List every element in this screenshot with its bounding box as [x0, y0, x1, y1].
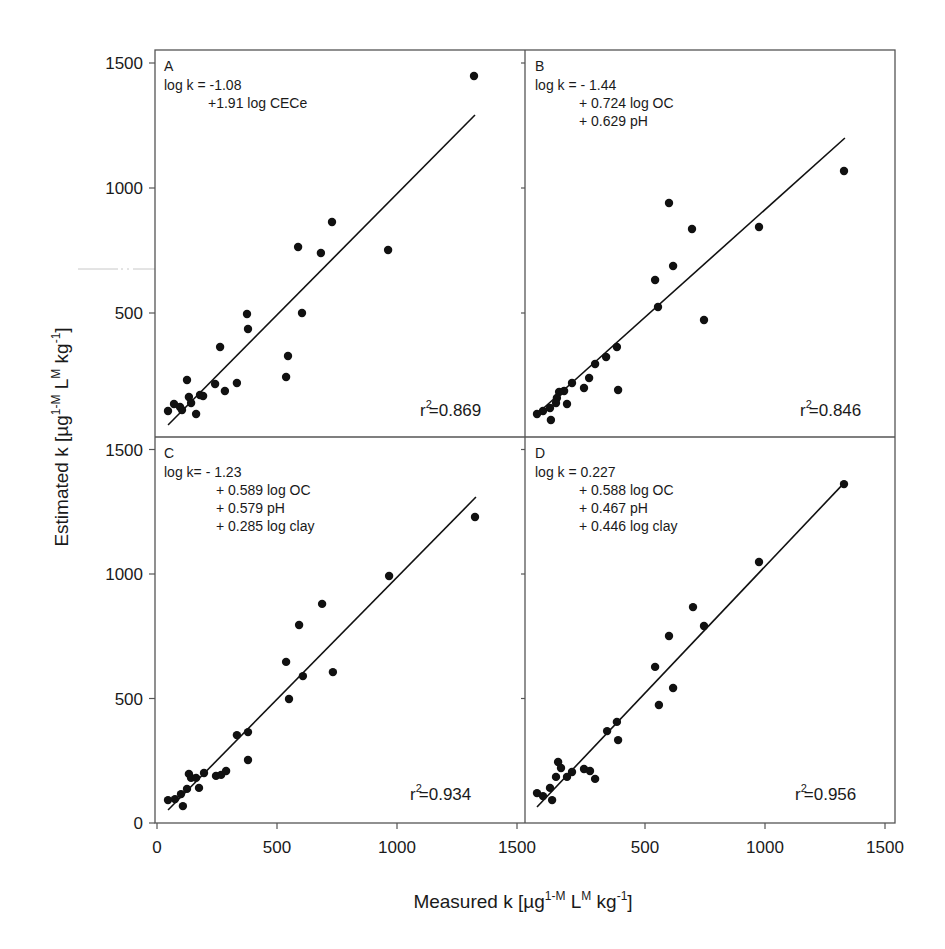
- data-point: [654, 303, 662, 311]
- data-point: [178, 406, 186, 414]
- data-point: [470, 72, 478, 80]
- data-point: [568, 379, 576, 387]
- data-point: [200, 769, 208, 777]
- data-point: [199, 392, 207, 400]
- equation-line: +1.91 log CECe: [208, 95, 307, 111]
- equation-line: + 0.589 log OC: [216, 482, 311, 498]
- data-point: [164, 796, 172, 804]
- data-point: [548, 796, 556, 804]
- data-point: [216, 343, 224, 351]
- regression-line: [168, 115, 475, 425]
- data-point: [298, 309, 306, 317]
- data-point: [187, 399, 195, 407]
- panel-a: Alog k = -1.08+1.91 log CECer2=0.869: [164, 58, 481, 425]
- data-point: [244, 728, 252, 736]
- equation-line: + 0.629 pH: [579, 113, 648, 129]
- x-tick-label: 1500: [498, 838, 536, 857]
- data-point: [222, 767, 230, 775]
- data-point: [183, 376, 191, 384]
- chart-figure: Alog k = -1.08+1.91 log CECer2=0.869Blog…: [0, 0, 945, 949]
- data-point: [688, 225, 696, 233]
- equation-line: + 0.724 log OC: [579, 95, 674, 111]
- x-tick-label: 1000: [746, 838, 784, 857]
- r-squared-label: r2=0.934: [410, 782, 471, 804]
- data-point: [282, 373, 290, 381]
- data-point: [164, 407, 172, 415]
- panels-group: Alog k = -1.08+1.91 log CECer2=0.869Blog…: [164, 58, 861, 810]
- y-tick-label: 1000: [105, 565, 143, 584]
- data-point: [299, 672, 307, 680]
- equation-line: + 0.579 pH: [216, 500, 285, 516]
- data-point: [840, 480, 848, 488]
- data-point: [586, 767, 594, 775]
- data-point: [294, 243, 302, 251]
- data-point: [755, 558, 763, 566]
- data-point: [613, 718, 621, 726]
- data-point: [546, 784, 554, 792]
- data-point: [221, 387, 229, 395]
- data-point: [580, 384, 588, 392]
- data-point: [655, 701, 663, 709]
- data-point: [195, 784, 203, 792]
- equation-line: + 0.446 log clay: [579, 518, 677, 534]
- data-point: [591, 775, 599, 783]
- r-squared-label: r2=0.956: [795, 782, 856, 804]
- regression-line: [537, 138, 845, 414]
- data-point: [700, 622, 708, 630]
- data-point: [192, 410, 200, 418]
- axes-group: 5001000150005001000150005001000150050010…: [105, 54, 904, 857]
- x-tick-label: 0: [152, 838, 161, 857]
- y-tick-label: 1500: [105, 54, 143, 73]
- data-point: [329, 668, 337, 676]
- data-point: [233, 731, 241, 739]
- x-axis-title: Measured k [µg1-M LM kg-1]: [413, 889, 632, 912]
- equation-line: + 0.467 pH: [579, 500, 648, 516]
- panel-letter: C: [164, 445, 174, 461]
- data-point: [755, 223, 763, 231]
- equation-line: log k= - 1.23: [164, 464, 242, 480]
- data-point: [318, 600, 326, 608]
- panel-c: Clog k= - 1.23+ 0.589 log OC+ 0.579 pH+ …: [164, 445, 479, 810]
- data-point: [651, 663, 659, 671]
- panel-b: Blog k = - 1.44+ 0.724 log OC+ 0.629 pHr…: [533, 58, 861, 424]
- x-tick-label: 500: [263, 838, 291, 857]
- data-point: [614, 386, 622, 394]
- data-point: [651, 276, 659, 284]
- equation-line: log k = -1.08: [164, 77, 242, 93]
- equation-line: log k = 0.227: [535, 464, 616, 480]
- data-point: [563, 400, 571, 408]
- data-point: [547, 416, 555, 424]
- data-point: [689, 603, 697, 611]
- data-point: [669, 684, 677, 692]
- data-point: [614, 736, 622, 744]
- data-point: [557, 764, 565, 772]
- data-point: [602, 353, 610, 361]
- data-point: [285, 695, 293, 703]
- y-tick-label: 1000: [105, 179, 143, 198]
- x-tick-label: 1000: [378, 838, 416, 857]
- data-point: [591, 360, 599, 368]
- data-point: [665, 199, 673, 207]
- y-tick-label: 0: [134, 814, 143, 833]
- data-point: [295, 621, 303, 629]
- data-point: [282, 658, 290, 666]
- y-axis-title: Estimated k [µg1-M LM kg-1]: [49, 327, 72, 546]
- y-tick-label: 1500: [105, 441, 143, 460]
- y-tick-label: 500: [115, 690, 143, 709]
- data-point: [179, 802, 187, 810]
- data-point: [533, 410, 541, 418]
- data-point: [284, 352, 292, 360]
- data-point: [840, 167, 848, 175]
- equation-line: + 0.588 log OC: [579, 482, 674, 498]
- data-point: [563, 773, 571, 781]
- equation-line: log k = - 1.44: [535, 77, 617, 93]
- data-point: [317, 249, 325, 257]
- regression-line: [168, 497, 476, 810]
- y-tick-label: 500: [115, 304, 143, 323]
- data-point: [211, 380, 219, 388]
- data-point: [539, 792, 547, 800]
- data-point: [233, 379, 241, 387]
- x-tick-label: 1500: [866, 838, 904, 857]
- data-point: [700, 316, 708, 324]
- data-point: [244, 325, 252, 333]
